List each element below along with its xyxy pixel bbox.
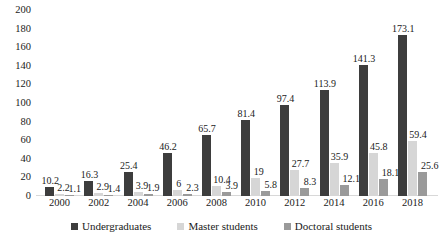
- x-axis-tick-label: 2008: [197, 198, 236, 209]
- bar[interactable]: 59.4: [408, 141, 417, 196]
- bar-group: 46.262.3: [158, 10, 197, 196]
- legend-swatch-icon: [177, 223, 184, 230]
- bar-slot: 19: [251, 10, 260, 196]
- bar[interactable]: 1.4: [104, 195, 113, 196]
- x-axis-tick-label: 2002: [79, 198, 118, 209]
- x-axis-tick-label: 2010: [236, 198, 275, 209]
- bar-group: 10.22.21.1: [40, 10, 79, 196]
- x-axis-tick-labels: 2000200220042006200820102012201420162018: [36, 198, 436, 209]
- x-axis-tick-label: 2000: [40, 198, 79, 209]
- x-axis-tick-label: 2006: [158, 198, 197, 209]
- bar-slot: 25.4: [124, 10, 133, 196]
- x-axis-tick-label: 2016: [354, 198, 393, 209]
- legend-item[interactable]: Master students: [177, 221, 257, 232]
- bar-slot: 3.9: [134, 10, 143, 196]
- bar[interactable]: 1.9: [144, 194, 153, 196]
- bar-slot: 16.3: [84, 10, 93, 196]
- bar[interactable]: 5.8: [261, 191, 270, 196]
- y-axis-tick-label: 40: [21, 154, 32, 165]
- y-axis-tick-label: 180: [15, 23, 31, 34]
- legend-item[interactable]: Doctoral students: [284, 221, 372, 232]
- bar-group: 81.4195.8: [236, 10, 275, 196]
- bar-value-label: 25.6: [421, 161, 439, 171]
- bar-group: 25.43.91.9: [118, 10, 157, 196]
- bar-slot: 27.7: [290, 10, 299, 196]
- y-axis-tick-label: 140: [15, 61, 31, 72]
- bar[interactable]: 27.7: [290, 170, 299, 196]
- legend-label: Master students: [188, 221, 257, 232]
- bar-slot: 1.9: [144, 10, 153, 196]
- chart-legend: UndergraduatesMaster studentsDoctoral st…: [0, 221, 443, 232]
- bar-slot: 46.2: [163, 10, 172, 196]
- bar-slot: 18.1: [379, 10, 388, 196]
- bar-group: 16.32.91.4: [79, 10, 118, 196]
- bar[interactable]: 113.9: [320, 90, 329, 196]
- bar[interactable]: 19: [251, 178, 260, 196]
- y-axis-tick-label: 160: [15, 42, 31, 53]
- bar-slot: 97.4: [280, 10, 289, 196]
- bar[interactable]: 97.4: [280, 105, 289, 196]
- bar-slot: 10.4: [212, 10, 221, 196]
- plot-area: 020406080100120140160180200 10.22.21.116…: [36, 10, 436, 196]
- bar[interactable]: 10.2: [45, 187, 54, 196]
- bar[interactable]: 6: [173, 190, 182, 196]
- y-axis-tick-label: 60: [21, 135, 32, 146]
- bar-slot: 1.1: [65, 10, 74, 196]
- y-axis-tick-label: 200: [15, 5, 31, 16]
- bar-slot: 113.9: [320, 10, 329, 196]
- bar-slot: 81.4: [241, 10, 250, 196]
- bar[interactable]: 25.4: [124, 172, 133, 196]
- bar[interactable]: 45.8: [369, 153, 378, 196]
- legend-item[interactable]: Undergraduates: [71, 221, 151, 232]
- bar-group: 113.935.912.1: [314, 10, 353, 196]
- y-axis-tick-label: 120: [15, 79, 31, 90]
- x-axis-tick-label: 2018: [393, 198, 432, 209]
- bar[interactable]: 2.9: [94, 193, 103, 196]
- bar-slot: 12.1: [340, 10, 349, 196]
- bar[interactable]: 3.9: [222, 192, 231, 196]
- bar[interactable]: 10.4: [212, 186, 221, 196]
- x-axis-tick-label: 2014: [314, 198, 353, 209]
- bar-slot: 45.8: [369, 10, 378, 196]
- bar[interactable]: 35.9: [330, 163, 339, 196]
- bar-value-label: 6: [176, 179, 181, 189]
- bar-slot: 10.2: [45, 10, 54, 196]
- bar[interactable]: 65.7: [202, 135, 211, 196]
- bar-slot: 5.8: [261, 10, 270, 196]
- bar[interactable]: 173.1: [398, 35, 407, 196]
- bar[interactable]: 141.3: [359, 65, 368, 196]
- bar[interactable]: 3.9: [134, 192, 143, 196]
- bar[interactable]: 25.6: [418, 172, 427, 196]
- bar-groups: 10.22.21.116.32.91.425.43.91.946.262.365…: [36, 10, 436, 196]
- bar-slot: 3.9: [222, 10, 231, 196]
- bar[interactable]: 8.3: [300, 188, 309, 196]
- bar[interactable]: 2.2: [55, 194, 64, 196]
- y-axis-tick-label: 20: [21, 172, 32, 183]
- bar[interactable]: 1.1: [65, 195, 74, 196]
- bar[interactable]: 81.4: [241, 120, 250, 196]
- x-axis-tick-label: 2012: [275, 198, 314, 209]
- bar-group: 141.345.818.1: [354, 10, 393, 196]
- y-axis-tick-label: 0: [26, 191, 31, 202]
- legend-label: Doctoral students: [295, 221, 372, 232]
- bar-slot: 2.3: [183, 10, 192, 196]
- bar-slot: 65.7: [202, 10, 211, 196]
- y-axis-tick-label: 100: [15, 98, 31, 109]
- bar-slot: 59.4: [408, 10, 417, 196]
- bar-slot: 25.6: [418, 10, 427, 196]
- bar[interactable]: 18.1: [379, 179, 388, 196]
- bar[interactable]: 2.3: [183, 194, 192, 196]
- bar[interactable]: 46.2: [163, 153, 172, 196]
- legend-label: Undergraduates: [82, 221, 151, 232]
- bar[interactable]: 12.1: [340, 185, 349, 196]
- y-axis-tick-label: 80: [21, 116, 32, 127]
- legend-swatch-icon: [284, 223, 291, 230]
- bar-slot: 35.9: [330, 10, 339, 196]
- bar-slot: 8.3: [300, 10, 309, 196]
- bar-slot: 2.2: [55, 10, 64, 196]
- bar[interactable]: 16.3: [84, 181, 93, 196]
- legend-swatch-icon: [71, 223, 78, 230]
- bar-group: 173.159.425.6: [393, 10, 432, 196]
- bar-group: 97.427.78.3: [275, 10, 314, 196]
- bar-slot: 173.1: [398, 10, 407, 196]
